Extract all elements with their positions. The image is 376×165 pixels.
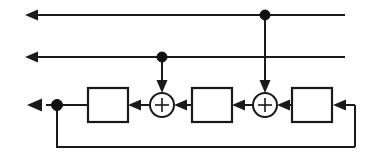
delay-block-3[interactable] [292,88,332,122]
tap-branch-upper-arrowhead-icon [260,80,271,93]
output-arrowhead-icon [27,99,42,112]
output-rail-upper-arrowhead-icon [25,10,38,21]
tap-branch-upper [260,10,271,93]
path-block3-to-adder2 [277,100,292,111]
path-adder2-to-block2 [232,100,253,111]
delay-block-2[interactable] [192,88,232,122]
output-rail-middle-arrowhead-icon [25,52,38,63]
tap-node-output-dot-icon [52,100,63,111]
adder-2[interactable] [253,93,277,117]
path-adder2-to-block2-arrowhead-icon [232,100,245,111]
adder-1[interactable] [150,93,174,117]
path-block2-to-adder1 [174,100,192,111]
tap-branch-middle [157,52,168,93]
tap-node-middle-dot-icon [157,52,167,62]
tap-branch-middle-arrowhead-icon [157,80,168,93]
path-adder1-to-block1-arrowhead-icon [128,100,141,111]
feedback-arrowhead-icon [333,100,346,111]
output-rail-middle [25,52,345,63]
signal-flow-graph [0,0,376,165]
tap-node-upper-dot-icon [260,10,270,20]
path-block3-to-adder2-arrowhead-icon [277,100,290,111]
diagram-canvas [0,0,376,165]
delay-block-1[interactable] [88,88,128,122]
output-rail-upper [25,10,345,21]
path-adder1-to-block1 [128,100,150,111]
path-block2-to-adder1-arrowhead-icon [174,100,187,111]
